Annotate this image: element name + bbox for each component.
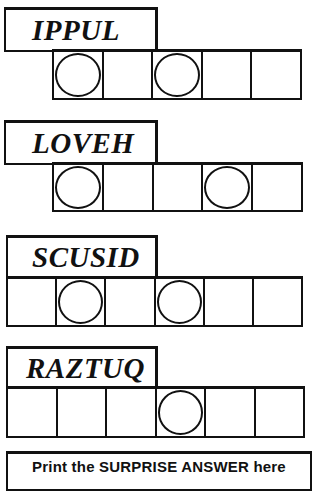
circle-marker-icon bbox=[158, 390, 204, 435]
letter-cell-3-5[interactable] bbox=[205, 279, 254, 325]
scrambled-word-box-4: RAZTUQ bbox=[6, 346, 158, 389]
circle-marker-icon bbox=[55, 166, 101, 209]
answer-cells-2 bbox=[52, 162, 303, 212]
letter-cell-4-1[interactable] bbox=[8, 389, 58, 436]
letter-cell-3-4[interactable] bbox=[156, 279, 205, 325]
circle-marker-icon bbox=[154, 53, 200, 97]
circle-marker-icon bbox=[157, 280, 202, 324]
scrambled-word-2: LOVEH bbox=[32, 129, 134, 158]
letter-cell-1-3[interactable] bbox=[153, 52, 203, 98]
letter-cell-2-5[interactable] bbox=[253, 165, 301, 210]
letter-cell-2-2[interactable] bbox=[104, 165, 154, 210]
letter-cell-1-2[interactable] bbox=[104, 52, 154, 98]
scrambled-word-4: RAZTUQ bbox=[26, 354, 145, 383]
letter-cell-4-6[interactable] bbox=[256, 389, 304, 436]
circle-marker-icon bbox=[58, 280, 103, 324]
circle-marker-icon bbox=[55, 53, 101, 97]
surprise-answer-box[interactable]: Print the SURPRISE ANSWER here bbox=[6, 451, 312, 491]
letter-cell-1-1[interactable] bbox=[54, 52, 104, 98]
letter-cell-1-5[interactable] bbox=[252, 52, 300, 98]
scrambled-word-box-2: LOVEH bbox=[4, 120, 158, 165]
scrambled-word-1: IPPUL bbox=[32, 16, 120, 45]
answer-cells-1 bbox=[52, 49, 302, 100]
letter-cell-4-5[interactable] bbox=[206, 389, 256, 436]
circle-marker-icon bbox=[204, 166, 250, 209]
answer-suffix: here bbox=[249, 458, 286, 475]
letter-cell-4-2[interactable] bbox=[58, 389, 108, 436]
scrambled-word-box-1: IPPUL bbox=[4, 7, 158, 52]
answer-prefix: Print the bbox=[32, 458, 99, 475]
letter-cell-3-1[interactable] bbox=[8, 279, 57, 325]
answer-emphasis: SURPRISE ANSWER bbox=[99, 458, 249, 475]
letter-cell-3-6[interactable] bbox=[254, 279, 301, 325]
answer-cells-4 bbox=[6, 386, 305, 438]
letter-cell-2-4[interactable] bbox=[203, 165, 253, 210]
letter-cell-3-3[interactable] bbox=[106, 279, 155, 325]
scrambled-word-3: SCUSID bbox=[32, 243, 140, 272]
letter-cell-4-4[interactable] bbox=[157, 389, 207, 436]
letter-cell-2-3[interactable] bbox=[154, 165, 204, 210]
answer-cells-3 bbox=[6, 276, 303, 327]
letter-cell-1-4[interactable] bbox=[203, 52, 253, 98]
surprise-answer-instruction: Print the SURPRISE ANSWER here bbox=[32, 458, 286, 475]
letter-cell-3-2[interactable] bbox=[57, 279, 106, 325]
letter-cell-4-3[interactable] bbox=[107, 389, 157, 436]
letter-cell-2-1[interactable] bbox=[54, 165, 104, 210]
scrambled-word-box-3: SCUSID bbox=[6, 235, 158, 279]
